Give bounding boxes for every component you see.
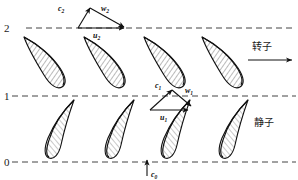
rotor-blade-3	[144, 37, 185, 88]
vector-label-c2: c2	[58, 4, 65, 14]
stator-blade-4	[219, 100, 248, 158]
stator-blade-3	[161, 100, 190, 158]
vector-c2	[78, 8, 90, 28]
vector-label-u1: u1	[160, 113, 167, 123]
stator-label: 静子	[254, 116, 274, 128]
vector-label-w1: w1	[185, 86, 193, 96]
stator-row	[45, 100, 248, 158]
vector-label-w2: w2	[101, 4, 109, 14]
stator-annotation: 静子	[254, 116, 274, 128]
vector-label-c1: c1	[155, 81, 162, 91]
rotor-label: 转子	[252, 40, 272, 52]
stage-diagram: 2 1 0	[0, 0, 298, 180]
inlet-velocity-triangle: c1 w1 u1	[150, 81, 193, 123]
station-label-0: 0	[4, 156, 10, 168]
station-label-1: 1	[4, 90, 10, 102]
vector-label-u2: u2	[93, 31, 100, 41]
vector-c1	[150, 90, 172, 110]
rotor-blade-4	[202, 37, 243, 88]
vector-label-c0: c0	[151, 170, 158, 180]
stator-blade-2	[105, 100, 134, 158]
station-label-2: 2	[4, 22, 10, 34]
figure-canvas: 2 1 0	[0, 0, 298, 180]
exit-velocity-triangle: c2 w2 u2	[58, 4, 124, 41]
stator-blade-1	[45, 100, 74, 158]
rotor-blade-2	[84, 37, 125, 88]
rotor-blade-1	[24, 37, 65, 88]
rotor-annotation: 转子	[248, 40, 292, 60]
rotor-row	[24, 37, 243, 88]
inlet-velocity-c0: c0	[147, 160, 158, 180]
